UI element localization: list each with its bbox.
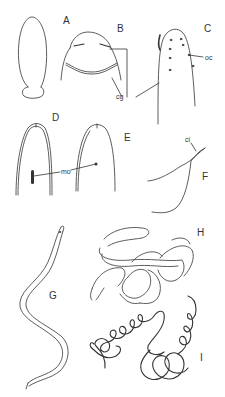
- panel-d-drawing: [16, 124, 60, 196]
- panel-label-f: F: [202, 172, 208, 182]
- annotation-ci: ci: [185, 136, 190, 143]
- annotation-oc: oc: [205, 54, 212, 61]
- panel-label-g: G: [49, 291, 57, 301]
- panel-b-drawing: [61, 32, 127, 97]
- panel-e-drawing: [71, 124, 115, 191]
- panel-f-drawing: [148, 143, 205, 213]
- panel-label-a: A: [63, 16, 70, 26]
- annotation-mo: mo: [61, 168, 71, 175]
- panel-h-drawing: [91, 227, 194, 303]
- panel-label-d: D: [52, 113, 59, 123]
- panel-label-e: E: [124, 133, 131, 143]
- panel-a-drawing: [18, 17, 46, 98]
- panel-label-h: H: [197, 228, 204, 238]
- panel-label-b: B: [117, 24, 124, 34]
- scientific-figure: A B C D E F G H I cg oc mo ci: [0, 0, 225, 397]
- panel-g-drawing: [20, 226, 68, 389]
- annotation-cg: cg: [116, 93, 123, 100]
- panel-c-drawing: [136, 29, 203, 124]
- panel-i-drawing: [90, 296, 196, 379]
- figure-drawing: [0, 0, 225, 397]
- panel-label-c: C: [204, 24, 211, 34]
- panel-label-i: I: [200, 353, 203, 363]
